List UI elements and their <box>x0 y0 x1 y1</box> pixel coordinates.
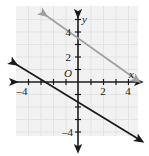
x-axis-label: x <box>128 68 134 80</box>
y-axis-label: y <box>81 13 87 25</box>
coordinate-plane-graph: y x O –4 2 4 4 2 –4 <box>0 0 149 156</box>
x-tick-label-2: 2 <box>100 85 106 97</box>
graph-canvas: y x O –4 2 4 4 2 –4 <box>0 0 149 156</box>
y-tick-label-2: 2 <box>66 51 72 63</box>
y-tick-label-neg4: –4 <box>61 126 74 138</box>
y-tick-label-4: 4 <box>66 26 72 38</box>
plot-background <box>16 6 138 136</box>
origin-label: O <box>64 67 72 79</box>
x-tick-label-neg4: –4 <box>16 85 29 97</box>
x-tick-label-4: 4 <box>125 85 131 97</box>
